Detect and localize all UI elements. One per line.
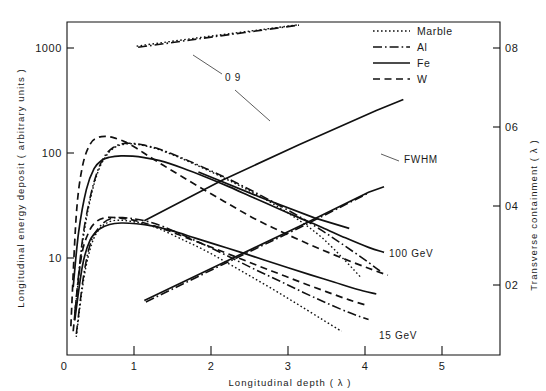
y-left-ticks bbox=[67, 48, 74, 258]
legend-item-fe[interactable]: Fe bbox=[373, 57, 430, 69]
curve-al-100-gev-longitudinal-deposit bbox=[75, 143, 380, 313]
y-tick-label-100: 100 bbox=[42, 147, 62, 159]
legend-item-marble[interactable]: Marble bbox=[373, 25, 453, 37]
legend-item-al[interactable]: Al bbox=[373, 41, 428, 53]
curve-al-0-9-transverse-containment bbox=[138, 25, 299, 47]
leader-09-upper bbox=[193, 55, 222, 74]
curve-marble-100-gev-longitudinal-deposit bbox=[75, 144, 361, 316]
leader-09-lower bbox=[235, 90, 270, 121]
x-tick-label-0: 0 bbox=[61, 360, 68, 372]
x-tick-label-1: 1 bbox=[131, 360, 138, 372]
legend-item-w[interactable]: W bbox=[373, 73, 428, 85]
legend-label-w: W bbox=[417, 73, 428, 85]
y-right-tick-label-02: 02 bbox=[505, 279, 518, 291]
curve-fe-15-gev-longitudinal-deposit bbox=[75, 223, 377, 321]
y-tick-label-10: 10 bbox=[49, 252, 62, 264]
x-tick-label-4: 4 bbox=[362, 360, 369, 372]
legend-label-fe: Fe bbox=[417, 57, 430, 69]
curve-w-15-gev-longitudinal-deposit bbox=[73, 217, 368, 331]
legend-label-marble: Marble bbox=[417, 25, 453, 37]
y-right-ticks bbox=[493, 48, 500, 285]
y-left-axis-title: Longitudinal energy deposit ( arbitrary … bbox=[15, 68, 26, 308]
annotation-15gev: 15 GeV bbox=[379, 330, 417, 341]
y-right-tick-label-08: 08 bbox=[505, 42, 518, 54]
y-right-tick-label-06: 06 bbox=[505, 121, 518, 133]
annotation-containment-09: 0 9 bbox=[225, 72, 241, 83]
y-right-tick-label-04: 04 bbox=[505, 200, 518, 212]
x-tick-label-3: 3 bbox=[285, 360, 292, 372]
chart-svg: 1000 100 10 Longitudinal energy deposit … bbox=[0, 0, 546, 391]
x-axis-title: Longitudinal depth ( λ ) bbox=[228, 377, 351, 388]
x-tick-label-5: 5 bbox=[439, 360, 446, 372]
legend-label-al: Al bbox=[417, 41, 428, 53]
annotation-fwhm: FWHM bbox=[404, 154, 438, 165]
y-tick-label-1000: 1000 bbox=[35, 42, 62, 54]
y-right-axis-title: Transverse containment ( λ ) bbox=[528, 139, 539, 290]
leader-fwhm bbox=[381, 154, 399, 161]
x-ticks bbox=[134, 346, 442, 355]
legend: Marble Al Fe W bbox=[373, 25, 453, 85]
annotation-100gev: 100 GeV bbox=[389, 248, 433, 259]
figure-container: 1000 100 10 Longitudinal energy deposit … bbox=[0, 0, 546, 391]
curve-w-100-gev-longitudinal-deposit bbox=[71, 136, 388, 326]
curve-al-15-gev-longitudinal-deposit bbox=[76, 218, 368, 335]
curve-fe-100-gev-longitudinal-deposit bbox=[73, 156, 384, 287]
plot-frame bbox=[67, 22, 500, 355]
annotation-leaders bbox=[193, 55, 399, 161]
curve-marble-15-gev-longitudinal-deposit bbox=[76, 220, 341, 337]
x-tick-label-2: 2 bbox=[208, 360, 215, 372]
